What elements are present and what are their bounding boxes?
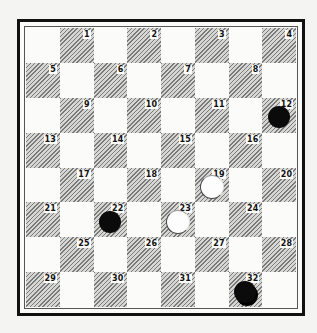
light-square <box>195 272 229 307</box>
light-square <box>26 237 60 272</box>
square-8[interactable]: 8 <box>229 63 263 98</box>
square-number: 3 <box>218 30 226 39</box>
light-square <box>60 133 94 168</box>
square-number: 5 <box>49 65 57 74</box>
square-1[interactable]: 1 <box>60 28 94 63</box>
square-28[interactable]: 28 <box>262 237 296 272</box>
square-number: 4 <box>285 30 293 39</box>
square-25[interactable]: 25 <box>60 237 94 272</box>
light-square <box>161 237 195 272</box>
white-checker-piece[interactable] <box>166 210 190 234</box>
square-number: 30 <box>111 274 124 283</box>
square-number: 14 <box>111 135 124 144</box>
square-12[interactable]: 12 <box>262 98 296 133</box>
square-number: 31 <box>179 274 192 283</box>
square-number: 1 <box>83 30 91 39</box>
board-inner-border: 1234567891011121314151617181920212223242… <box>24 26 298 309</box>
light-square <box>195 63 229 98</box>
light-square <box>127 272 161 307</box>
black-checker-piece[interactable] <box>268 106 290 128</box>
square-number: 21 <box>44 204 57 213</box>
light-square <box>127 202 161 237</box>
square-26[interactable]: 26 <box>127 237 161 272</box>
square-number: 7 <box>184 65 192 74</box>
square-10[interactable]: 10 <box>127 98 161 133</box>
board-frame: 1234567891011121314151617181920212223242… <box>17 19 305 316</box>
light-square <box>229 168 263 203</box>
square-number: 25 <box>77 239 90 248</box>
light-square <box>127 133 161 168</box>
light-square <box>229 28 263 63</box>
square-4[interactable]: 4 <box>262 28 296 63</box>
light-square <box>262 133 296 168</box>
light-square <box>161 28 195 63</box>
black-king-piece[interactable] <box>234 281 256 303</box>
white-checker-piece[interactable] <box>200 175 224 199</box>
light-square <box>94 237 128 272</box>
square-11[interactable]: 11 <box>195 98 229 133</box>
square-number: 8 <box>252 65 260 74</box>
square-number: 20 <box>280 170 293 179</box>
light-square <box>229 237 263 272</box>
square-30[interactable]: 30 <box>94 272 128 307</box>
square-number: 17 <box>77 170 90 179</box>
square-20[interactable]: 20 <box>262 168 296 203</box>
light-square <box>26 98 60 133</box>
light-square <box>161 98 195 133</box>
light-square <box>94 98 128 133</box>
square-number: 27 <box>212 239 225 248</box>
square-number: 18 <box>145 170 158 179</box>
square-5[interactable]: 5 <box>26 63 60 98</box>
square-number: 15 <box>179 135 192 144</box>
square-number: 10 <box>145 100 158 109</box>
light-square <box>262 63 296 98</box>
square-3[interactable]: 3 <box>195 28 229 63</box>
square-6[interactable]: 6 <box>94 63 128 98</box>
square-24[interactable]: 24 <box>229 202 263 237</box>
square-number: 28 <box>280 239 293 248</box>
square-number: 9 <box>83 100 91 109</box>
square-15[interactable]: 15 <box>161 133 195 168</box>
square-27[interactable]: 27 <box>195 237 229 272</box>
light-square <box>127 63 161 98</box>
square-14[interactable]: 14 <box>94 133 128 168</box>
light-square <box>195 133 229 168</box>
square-18[interactable]: 18 <box>127 168 161 203</box>
square-number: 6 <box>117 65 125 74</box>
light-square <box>229 98 263 133</box>
light-square <box>26 28 60 63</box>
square-number: 11 <box>212 100 225 109</box>
square-2[interactable]: 2 <box>127 28 161 63</box>
square-19[interactable]: 19 <box>195 168 229 203</box>
square-number: 29 <box>44 274 57 283</box>
square-number: 13 <box>44 135 57 144</box>
black-checker-piece[interactable] <box>99 211 121 233</box>
light-square <box>94 168 128 203</box>
square-23[interactable]: 23 <box>161 202 195 237</box>
square-16[interactable]: 16 <box>229 133 263 168</box>
light-square <box>94 28 128 63</box>
light-square <box>60 202 94 237</box>
light-square <box>195 202 229 237</box>
light-square <box>262 202 296 237</box>
square-21[interactable]: 21 <box>26 202 60 237</box>
square-29[interactable]: 29 <box>26 272 60 307</box>
square-31[interactable]: 31 <box>161 272 195 307</box>
square-number: 26 <box>145 239 158 248</box>
light-square <box>26 168 60 203</box>
light-square <box>262 272 296 307</box>
square-22[interactable]: 22 <box>94 202 128 237</box>
checkers-board: 1234567891011121314151617181920212223242… <box>26 28 296 307</box>
square-number: 2 <box>150 30 158 39</box>
square-7[interactable]: 7 <box>161 63 195 98</box>
square-9[interactable]: 9 <box>60 98 94 133</box>
square-17[interactable]: 17 <box>60 168 94 203</box>
light-square <box>60 63 94 98</box>
square-13[interactable]: 13 <box>26 133 60 168</box>
light-square <box>60 272 94 307</box>
square-32[interactable]: 32 <box>229 272 263 307</box>
light-square <box>161 168 195 203</box>
square-number: 24 <box>246 204 259 213</box>
square-number: 16 <box>246 135 259 144</box>
